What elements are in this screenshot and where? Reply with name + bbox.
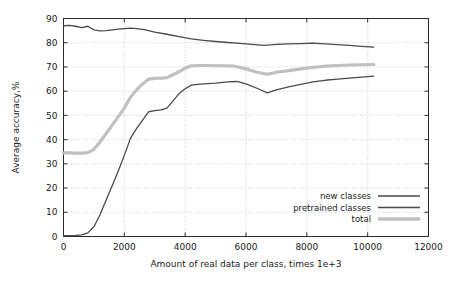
ytick-label: 10 (46, 207, 58, 217)
xtick-label: 4000 (174, 242, 197, 252)
ytick-label: 70 (46, 62, 58, 72)
xtick-label: 8000 (295, 242, 318, 252)
ytick-label: 30 (46, 159, 58, 169)
ytick-label: 50 (46, 111, 58, 121)
ytick-label: 60 (46, 86, 58, 96)
x-axis-title: Amount of real data per class, times 1e+… (150, 259, 341, 269)
line-chart: 0102030405060708090020004000600080001000… (0, 0, 461, 281)
xtick-label: 6000 (235, 242, 258, 252)
ytick-label: 40 (46, 135, 58, 145)
xtick-label: 2000 (113, 242, 136, 252)
ytick-label: 0 (52, 232, 58, 242)
xtick-label: 0 (61, 242, 67, 252)
series-line-pretrained-classes (64, 25, 374, 47)
ytick-label: 80 (46, 38, 58, 48)
chart-container: 0102030405060708090020004000600080001000… (0, 0, 461, 281)
series-line-total (64, 65, 374, 154)
chart-legend: new classespretrained classestotal (293, 191, 420, 224)
legend-label-new-classes: new classes (320, 191, 372, 201)
xtick-label: 12000 (414, 242, 443, 252)
legend-label-pretrained-classes: pretrained classes (293, 203, 371, 213)
grid-lines (64, 19, 429, 237)
xtick-label: 10000 (353, 242, 382, 252)
y-axis-title: Average accuracy,% (11, 81, 21, 173)
ytick-label: 20 (46, 183, 58, 193)
ytick-label: 90 (46, 14, 58, 24)
legend-label-total: total (352, 214, 371, 224)
